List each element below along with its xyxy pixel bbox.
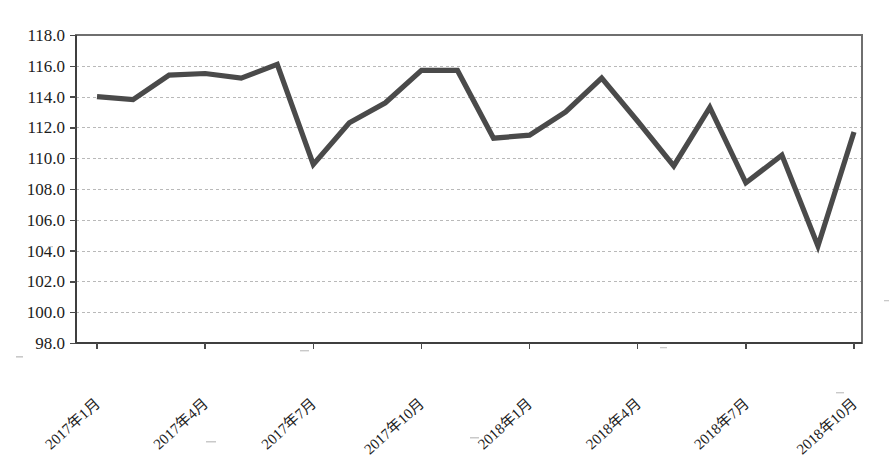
y-axis-tick-label: 108.0 xyxy=(27,180,65,199)
scan-speck xyxy=(206,441,216,443)
scan-speck xyxy=(48,246,53,247)
x-axis-tick-label: 2017年1月 xyxy=(42,395,103,452)
scan-speck xyxy=(300,350,309,351)
y-axis-tick-label: 104.0 xyxy=(27,242,65,261)
y-axis-tick-label: 98.0 xyxy=(35,334,65,353)
scan-speck xyxy=(470,437,479,439)
y-axis-tick-label: 118.0 xyxy=(27,26,65,45)
x-axis-tick-label: 2017年4月 xyxy=(150,395,211,452)
y-axis-ticks: 118.0116.0114.0112.0110.0108.0106.0104.0… xyxy=(27,26,76,353)
y-axis-tick-label: 110.0 xyxy=(27,149,65,168)
y-axis-tick-label: 100.0 xyxy=(27,303,65,322)
x-axis-tick-label: 2017年10月 xyxy=(361,395,427,457)
y-axis-tick-label: 102.0 xyxy=(27,272,65,291)
chart-container: 118.0116.0114.0112.0110.0108.0106.0104.0… xyxy=(0,0,894,461)
x-axis-tick-label: 2018年4月 xyxy=(583,395,644,452)
gridlines xyxy=(76,66,862,343)
y-axis-tick-label: 114.0 xyxy=(27,88,65,107)
data-series xyxy=(97,64,854,246)
y-axis-tick-label: 106.0 xyxy=(27,211,65,230)
x-axis-tick-label: 2017年7月 xyxy=(258,395,319,452)
x-axis-tick-label: 2018年10月 xyxy=(794,395,860,457)
y-axis-tick-label: 116.0 xyxy=(27,57,65,76)
x-axis-tick-label: 2018年1月 xyxy=(475,395,536,452)
scan-speck xyxy=(16,356,23,358)
series-line xyxy=(97,64,854,246)
line-chart: 118.0116.0114.0112.0110.0108.0106.0104.0… xyxy=(0,0,894,461)
x-axis-tick-label: 2018年7月 xyxy=(691,395,752,452)
scan-speck xyxy=(836,392,844,393)
scan-artifacts xyxy=(16,246,889,443)
scan-speck xyxy=(660,347,667,348)
x-axis-ticks: 2017年1月2017年4月2017年7月2017年10月2018年1月2018… xyxy=(42,343,860,457)
y-axis-tick-label: 112.0 xyxy=(27,118,65,137)
scan-speck xyxy=(884,300,889,301)
